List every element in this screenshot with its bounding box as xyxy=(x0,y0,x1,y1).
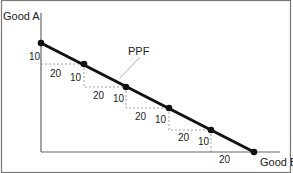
point-2 xyxy=(123,84,130,91)
point-4 xyxy=(208,127,215,134)
step-5-horizontal: 20 xyxy=(219,154,231,165)
chart-svg: Good A Good B PPF 10 20 10 20 10 20 10 2… xyxy=(0,0,293,173)
x-axis-label: Good B xyxy=(260,156,293,168)
ppf-chart: Good A Good B PPF 10 20 10 20 10 20 10 2… xyxy=(0,0,293,173)
ppf-line xyxy=(41,43,254,152)
ppf-label: PPF xyxy=(128,45,150,57)
point-1 xyxy=(81,61,88,68)
point-3 xyxy=(166,105,173,112)
step-3-horizontal: 20 xyxy=(135,111,147,122)
ppf-leader-line xyxy=(120,57,140,78)
step-4-vertical: 10 xyxy=(155,114,167,125)
step-2-horizontal: 20 xyxy=(93,90,105,101)
step-4-horizontal: 20 xyxy=(178,132,190,143)
step-3-vertical: 10 xyxy=(113,93,125,104)
step-2-vertical: 10 xyxy=(70,72,82,83)
y-axis-label: Good A xyxy=(3,10,40,22)
step-5-vertical: 10 xyxy=(198,136,210,147)
point-0 xyxy=(38,40,45,47)
point-5 xyxy=(251,149,258,156)
step-1-vertical: 10 xyxy=(29,51,41,62)
step-1-horizontal: 20 xyxy=(50,68,62,79)
chart-border xyxy=(2,1,291,173)
